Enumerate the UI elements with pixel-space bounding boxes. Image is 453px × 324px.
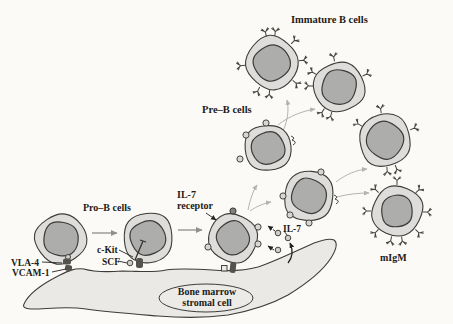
membrane-squiggle-icon: [291, 136, 295, 145]
migm-b-cell: [364, 178, 431, 244]
receptor-knob-icon: [306, 220, 312, 226]
ig-y-icon: [423, 208, 432, 217]
ig-y-icon: [325, 111, 335, 122]
label-pre-b-cells: Pre–B cells: [202, 104, 252, 115]
maturation-arrow: [337, 193, 369, 197]
receptor-knob-icon: [255, 241, 261, 247]
il7-receptor-knob-icon: [230, 208, 236, 214]
ig-y-icon: [386, 236, 396, 246]
ig-y-icon: [408, 123, 419, 134]
ig-y-icon: [362, 207, 371, 215]
receptor-knob-icon: [280, 193, 286, 199]
il7-receptor-leader: [206, 213, 216, 220]
diagram-canvas: Immature B cells Pre–B cells Pro–B cells…: [0, 0, 453, 324]
label-pro-b-cells: Pro–B cells: [83, 202, 131, 213]
receptor-knob-icon: [205, 244, 211, 250]
vla4-integrin-icon: [63, 259, 71, 265]
receptor-knob-icon: [255, 224, 261, 230]
ig-y-icon: [397, 236, 407, 246]
receptor-knob-icon: [263, 120, 269, 126]
receptor-knob-icon: [237, 156, 243, 162]
ig-y-icon: [329, 52, 339, 62]
ig-y-icon: [376, 104, 386, 114]
vcam1-icon: [65, 265, 73, 272]
receptor-square-icon: [222, 266, 228, 272]
label-c-kit: c-Kit: [97, 245, 118, 255]
immature-b-cell-2: [306, 54, 373, 120]
ig-y-icon: [236, 61, 245, 70]
label-stromal-line1: Bone marrow: [178, 286, 237, 297]
maturation-arrow: [283, 100, 288, 131]
receptor-knob-icon: [287, 212, 293, 218]
immature-b-cell-1: [243, 33, 300, 92]
b-cell-development-diagram: Immature B cells Pre–B cells Pro–B cells…: [0, 0, 453, 324]
il7-binding-arrow: [268, 246, 274, 250]
ig-y-icon: [299, 56, 308, 65]
vcam1-leader: [52, 269, 66, 272]
label-il7: IL-7: [283, 224, 301, 234]
label-immature-b-cells: Immature B cells: [291, 14, 368, 25]
il7-molecule-icon: [275, 247, 281, 253]
ig-y-icon: [265, 90, 274, 99]
adhesion-knob-icon: [136, 258, 143, 268]
label-vcam1: VCAM-1: [12, 268, 50, 278]
label-il7-receptor-line1: IL-7: [177, 189, 196, 200]
pro-b-to-pre-b-cell: [201, 206, 265, 271]
adhesion-knob-icon: [229, 262, 236, 274]
label-migm: mIgM: [380, 252, 407, 263]
scf-molecule-icon: [127, 260, 133, 266]
maturation-arrow: [336, 169, 367, 182]
label-vla4: VLA-4: [11, 258, 39, 268]
pro-b-cell-1: [30, 209, 91, 268]
ig-y-icon: [391, 163, 402, 174]
maturation-arrow: [250, 202, 271, 211]
ig-y-icon: [383, 167, 392, 176]
label-scf: SCF: [102, 257, 120, 267]
maturation-arrow: [278, 109, 315, 125]
receptor-knob-icon: [243, 132, 249, 138]
label-il7-receptor-line2: receptor: [177, 200, 213, 211]
receptor-knob-icon: [318, 169, 324, 175]
maturation-arrow: [248, 185, 257, 210]
ig-y-icon: [304, 82, 313, 91]
il7-binding-arrow: [268, 226, 275, 231]
label-stromal-line2: stromal cell: [182, 297, 232, 308]
ig-y-icon: [393, 176, 401, 185]
il7-molecule-icon: [275, 230, 281, 236]
immature-b-cell-3: [348, 103, 421, 177]
il7-molecule-icon: [285, 235, 291, 241]
